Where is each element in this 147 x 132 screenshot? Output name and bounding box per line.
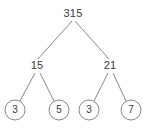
edge-15-to-leaf-3a xyxy=(20,73,35,101)
node-root: 315 xyxy=(64,7,83,19)
leaf-node-7: 7 xyxy=(121,100,141,120)
leaf-node-5: 5 xyxy=(49,100,69,120)
edge-root-to-21 xyxy=(75,21,109,59)
leaf-node-3b: 3 xyxy=(79,100,99,120)
node-15: 15 xyxy=(31,59,44,71)
node-21-label: 21 xyxy=(104,59,117,71)
node-15-label: 15 xyxy=(31,59,44,71)
node-root-label: 315 xyxy=(64,7,83,19)
tree-svg-canvas: 315 15 21 3 5 3 7 xyxy=(0,0,147,132)
leaf-node-3a: 3 xyxy=(5,100,25,120)
leaf-label-3a: 3 xyxy=(12,104,18,115)
leaf-label-5: 5 xyxy=(56,104,62,115)
factor-tree-diagram: 315 15 21 3 5 3 7 xyxy=(0,0,147,132)
edge-root-to-15 xyxy=(38,21,72,59)
edge-15-to-leaf-5 xyxy=(40,73,54,101)
node-21: 21 xyxy=(104,59,117,71)
leaf-label-3b: 3 xyxy=(86,104,92,115)
edge-21-to-leaf-3b xyxy=(94,73,108,101)
leaf-label-7: 7 xyxy=(128,104,134,115)
edge-21-to-leaf-7 xyxy=(113,73,126,101)
